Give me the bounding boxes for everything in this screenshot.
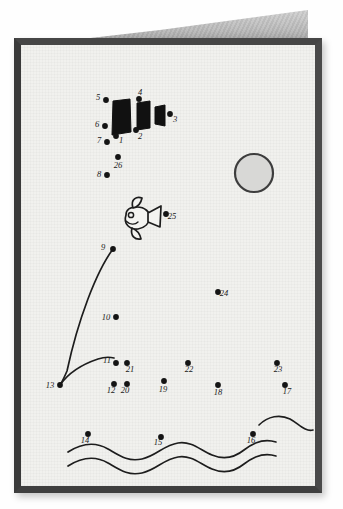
dot-label-11: 11: [103, 355, 111, 365]
dot-label-10: 10: [102, 312, 111, 322]
dot-23: 23: [274, 360, 283, 374]
dot-label-18: 18: [214, 387, 223, 397]
dot-9: 9: [101, 242, 116, 252]
fish-tail: [148, 206, 161, 227]
dot-label-25: 25: [168, 211, 177, 221]
dot-label-1: 1: [119, 135, 123, 145]
dot-7: 7: [97, 135, 110, 145]
dot-label-3: 3: [172, 114, 177, 124]
dot-19: 19: [159, 378, 168, 394]
dot-label-17: 17: [283, 386, 292, 396]
dot-20: 20: [121, 381, 130, 395]
dot-marker-9: [110, 246, 116, 252]
dot-label-6: 6: [95, 119, 100, 129]
dot-label-2: 2: [138, 131, 143, 141]
dot-label-7: 7: [97, 135, 102, 145]
dot-12: 12: [107, 381, 117, 395]
dot-label-4: 4: [138, 87, 143, 97]
dot-label-13: 13: [46, 380, 55, 390]
dot-label-23: 23: [274, 364, 283, 374]
dot-1: 1: [113, 133, 123, 145]
dot-8: 8: [97, 169, 110, 179]
dot-marker-11: [113, 360, 119, 366]
dot-17: 17: [282, 382, 292, 396]
connect-the-dots-artwork: 1234567891011121314151617181920212223242…: [0, 0, 343, 509]
dot-label-5: 5: [96, 92, 100, 102]
dot-label-14: 14: [81, 435, 90, 445]
dot-21: 21: [124, 360, 134, 374]
dot-6: 6: [95, 119, 108, 129]
dot-25: 25: [163, 211, 176, 221]
dot-marker-10: [113, 314, 119, 320]
dot-label-24: 24: [220, 288, 229, 298]
wave-bottom: [68, 454, 276, 473]
sail-block-3: [155, 105, 165, 126]
sail-block-1: [112, 99, 131, 135]
dot-26: 26: [114, 154, 123, 170]
dot-marker-7: [104, 139, 110, 145]
numbered-dots-group: 1234567891011121314151617181920212223242…: [46, 87, 292, 447]
dot-label-15: 15: [154, 437, 163, 447]
dot-22: 22: [185, 360, 194, 374]
dot-24: 24: [215, 288, 229, 298]
dot-label-21: 21: [126, 364, 135, 374]
dot-label-16: 16: [247, 435, 256, 445]
dot-label-8: 8: [97, 169, 102, 179]
dot-15: 15: [154, 434, 164, 447]
dot-marker-13: [57, 382, 63, 388]
dot-marker-8: [104, 172, 110, 178]
dot-label-22: 22: [185, 364, 194, 374]
dot-16: 16: [247, 431, 256, 445]
sun-icon: [235, 154, 273, 192]
sail-block-2: [137, 101, 150, 130]
dot-4: 4: [136, 87, 143, 102]
dot-marker-5: [103, 97, 109, 103]
dot-label-20: 20: [121, 385, 130, 395]
dot-18: 18: [214, 382, 223, 397]
fish-dorsal-fin: [132, 197, 142, 208]
dot-label-19: 19: [159, 384, 168, 394]
dot-label-26: 26: [114, 160, 123, 170]
dot-14: 14: [81, 431, 91, 445]
wave-top-right: [259, 416, 313, 430]
dot-marker-6: [102, 123, 108, 129]
dot-label-12: 12: [107, 385, 116, 395]
fish-pelvic-fin: [132, 228, 141, 239]
wave-middle: [68, 440, 276, 459]
screenshot-canvas: 1234567891011121314151617181920212223242…: [0, 0, 343, 509]
dot-13: 13: [46, 380, 63, 390]
fish-body: [125, 207, 150, 229]
waves-group: [68, 416, 313, 473]
dot-5: 5: [96, 92, 109, 103]
fish-group: [125, 197, 161, 239]
dot-3: 3: [167, 111, 177, 124]
dot-label-9: 9: [101, 242, 106, 252]
dot-10: 10: [102, 312, 119, 322]
sun-group: [235, 154, 273, 192]
